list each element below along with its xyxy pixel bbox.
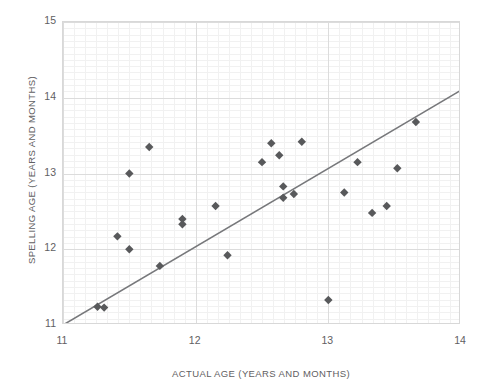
x-axis-title: ACTUAL AGE (YEARS AND MONTHS) xyxy=(62,368,460,379)
data-point xyxy=(383,202,391,210)
data-point xyxy=(353,158,361,166)
data-point xyxy=(324,296,332,304)
data-point xyxy=(125,169,133,177)
data-point xyxy=(298,137,306,145)
data-point xyxy=(393,164,401,172)
trend-line xyxy=(63,90,460,324)
data-point xyxy=(267,139,275,147)
data-point xyxy=(113,232,121,240)
y-tick-label: 14 xyxy=(32,90,56,102)
data-point xyxy=(279,182,287,190)
x-tick-label: 14 xyxy=(445,334,475,346)
y-tick-label: 12 xyxy=(32,241,56,253)
x-tick-label: 13 xyxy=(312,334,342,346)
x-tick-label: 12 xyxy=(180,334,210,346)
plot-area xyxy=(62,21,460,324)
data-point xyxy=(279,194,287,202)
data-point xyxy=(368,209,376,217)
data-point xyxy=(93,303,101,311)
scatter-chart: SPELLING AGE (YEARS AND MONTHS) ACTUAL A… xyxy=(0,0,486,392)
data-point xyxy=(125,245,133,253)
data-point xyxy=(340,188,348,196)
y-tick-label: 11 xyxy=(32,317,56,329)
x-tick-label: 11 xyxy=(47,334,77,346)
data-point xyxy=(223,251,231,259)
data-point xyxy=(145,143,153,151)
data-point xyxy=(258,158,266,166)
data-point xyxy=(275,151,283,159)
y-tick-label: 13 xyxy=(32,166,56,178)
plot-canvas xyxy=(63,22,460,324)
y-tick-label: 15 xyxy=(32,14,56,26)
